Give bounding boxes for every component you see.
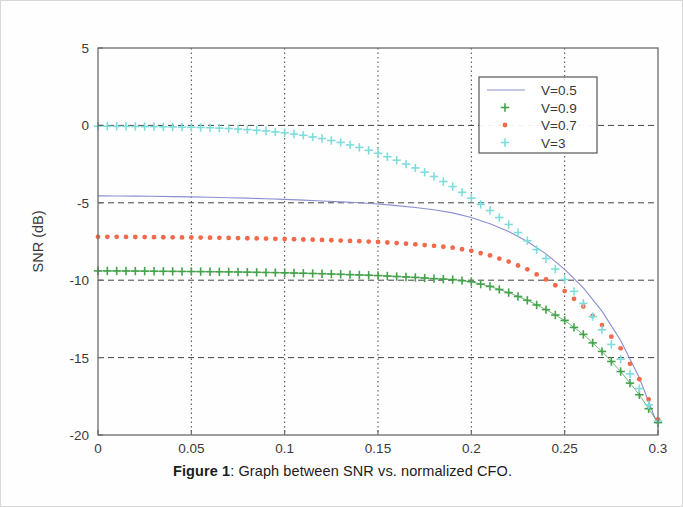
figure-caption-label: Figure 1 xyxy=(173,463,230,479)
figure-caption: Figure 1: Graph between SNR vs. normaliz… xyxy=(1,463,683,479)
snr-cfo-chart: 00.050.10.150.20.250.350-5-10-15-20 Norm… xyxy=(1,1,683,463)
y-tick-label: 0 xyxy=(81,118,89,133)
chart-legend: V=0.5V=0.9V=0.7V=3 xyxy=(479,77,597,153)
x-tick-label: 0.2 xyxy=(462,441,481,456)
x-tick-label: 0 xyxy=(94,441,102,456)
x-tick-label: 0.25 xyxy=(552,441,578,456)
x-tick-label: 0.3 xyxy=(649,441,668,456)
x-tick-label: 0.05 xyxy=(178,441,204,456)
legend-item-label: V=3 xyxy=(541,136,565,151)
figure-caption-text: Graph between SNR vs. normalized CFO. xyxy=(238,463,512,479)
chart-plot-area: 00.050.10.150.20.250.350-5-10-15-20 Norm… xyxy=(1,1,683,463)
y-tick-label: 5 xyxy=(81,41,89,56)
y-tick-label: -5 xyxy=(77,196,89,211)
legend-item-label: V=0.9 xyxy=(541,101,577,116)
legend-item-label: V=0.7 xyxy=(541,118,577,133)
y-tick-label: -15 xyxy=(69,351,89,366)
y-axis-title: SNR (dB) xyxy=(30,210,46,272)
figure-caption-separator: : xyxy=(230,463,234,479)
figure-container: 00.050.10.150.20.250.350-5-10-15-20 Norm… xyxy=(0,0,683,507)
x-tick-label: 0.1 xyxy=(275,441,294,456)
y-tick-label: -20 xyxy=(69,428,89,443)
y-tick-label: -10 xyxy=(69,273,89,288)
x-tick-label: 0.15 xyxy=(365,441,391,456)
axis-titles: Normalized CFOSNR (dB) xyxy=(30,210,384,463)
legend-item-label: V=0.5 xyxy=(541,83,577,98)
